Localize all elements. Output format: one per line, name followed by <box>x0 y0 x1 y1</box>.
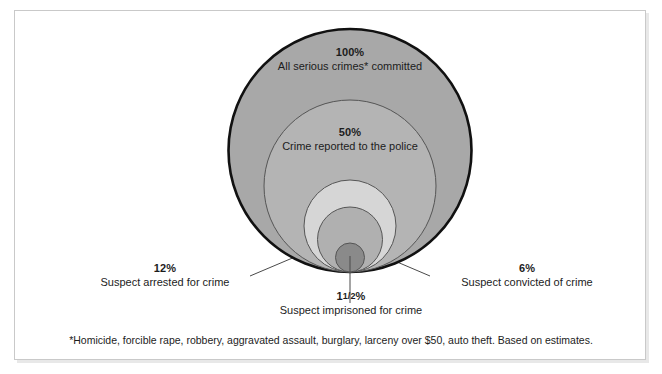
label-100-percent-value: 100% <box>241 46 459 60</box>
label-1-5-percent: 11/2% Suspect imprisoned for crime <box>260 290 442 318</box>
label-1-5-percent-value: 11/2% <box>260 290 442 304</box>
label-1-5-percent-fraction: 1/2 <box>343 291 356 301</box>
label-12-percent-description: Suspect arrested for crime <box>68 276 262 290</box>
label-50-percent: 50% Crime reported to the police <box>258 126 442 154</box>
label-100-percent: 100% All serious crimes* committed <box>241 46 459 74</box>
label-100-percent-description: All serious crimes* committed <box>241 60 459 74</box>
label-6-percent-value: 6% <box>434 262 620 276</box>
figure-footnote: *Homicide, forcible rape, robbery, aggra… <box>31 334 631 346</box>
label-1-5-percent-sign: % <box>356 290 366 302</box>
label-50-percent-description: Crime reported to the police <box>258 140 442 154</box>
figure-page: 100% All serious crimes* committed 50% C… <box>0 0 662 374</box>
label-12-percent: 12% Suspect arrested for crime <box>68 262 262 290</box>
label-6-percent: 6% Suspect convicted of crime <box>434 262 620 290</box>
label-1-5-percent-description: Suspect imprisoned for crime <box>260 304 442 318</box>
label-50-percent-value: 50% <box>258 126 442 140</box>
label-12-percent-value: 12% <box>68 262 262 276</box>
label-6-percent-description: Suspect convicted of crime <box>434 276 620 290</box>
